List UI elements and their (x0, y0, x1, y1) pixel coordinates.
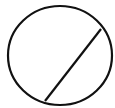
circle-with-chord-diagram (0, 0, 115, 108)
chord-line (45, 29, 101, 101)
circle-outline (8, 6, 112, 105)
